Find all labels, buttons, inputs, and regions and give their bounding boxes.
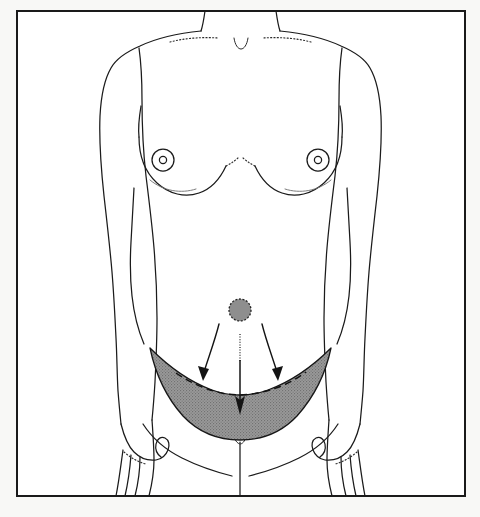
torso-diagram-svg — [0, 0, 480, 517]
umbilicus-group — [229, 299, 251, 321]
figure-root: Abdominoplasty resection pattern, anteri… — [0, 0, 480, 517]
